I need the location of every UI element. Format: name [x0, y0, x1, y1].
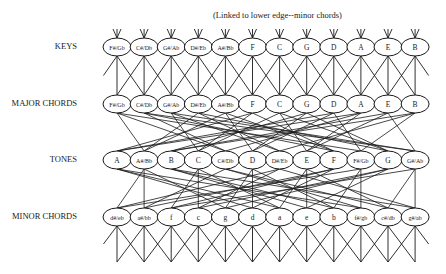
minor-node: c#/db: [374, 208, 402, 226]
edge: [388, 29, 392, 38]
minor-node: g#/ab: [401, 208, 429, 226]
svg-text:B: B: [413, 43, 418, 52]
edge: [103, 56, 117, 76]
major-node: C#/Db: [130, 95, 158, 113]
major-node: D: [320, 95, 348, 113]
svg-text:G: G: [304, 43, 310, 52]
minor-node: a#/bb: [130, 208, 158, 226]
edge: [415, 56, 429, 76]
edge: [221, 29, 225, 38]
edge: [117, 169, 253, 208]
svg-text:F#/Gb: F#/Gb: [109, 102, 124, 108]
tones-node: D#/Eb: [266, 151, 294, 169]
svg-text:E: E: [304, 156, 309, 165]
svg-text:a#/bb: a#/bb: [137, 215, 150, 221]
edge: [280, 29, 284, 38]
tones-node: B: [157, 151, 185, 169]
tones-node: C: [184, 151, 212, 169]
edge: [415, 29, 419, 38]
keys-node: C#/Db: [130, 38, 158, 56]
edge: [361, 29, 365, 38]
edge: [113, 29, 117, 38]
major-node: A#/Bb: [211, 95, 239, 113]
svg-text:B: B: [169, 156, 174, 165]
keys-node: B: [401, 38, 429, 56]
major-node: B: [401, 95, 429, 113]
major-node: F#/Gb: [103, 95, 131, 113]
svg-text:F#/Gb: F#/Gb: [109, 45, 124, 51]
keys-node: A: [347, 38, 375, 56]
svg-text:A#/Bb: A#/Bb: [217, 102, 233, 108]
svg-text:d#/eb: d#/eb: [110, 215, 123, 221]
edge: [171, 113, 388, 151]
tones-node: D: [239, 151, 267, 169]
minor-node: g: [211, 208, 239, 226]
svg-text:C#/Db: C#/Db: [217, 158, 233, 164]
tones-node: F#/Gb: [347, 151, 375, 169]
svg-text:D: D: [331, 100, 337, 109]
edge: [307, 113, 361, 151]
edge: [276, 29, 280, 38]
keys-node: G: [293, 38, 321, 56]
svg-text:A: A: [358, 100, 364, 109]
svg-text:F: F: [250, 43, 254, 52]
edge: [388, 113, 415, 151]
svg-text:D#/Eb: D#/Eb: [190, 102, 206, 108]
svg-text:f#/gb: f#/gb: [355, 215, 368, 221]
edge: [198, 29, 202, 38]
svg-text:G: G: [304, 100, 310, 109]
svg-text:D: D: [250, 156, 256, 165]
edge: [330, 29, 334, 38]
minor-node: d#/eb: [103, 208, 131, 226]
keys-node: D: [320, 38, 348, 56]
minor-node: f#/gb: [347, 208, 375, 226]
edge: [171, 29, 175, 38]
svg-text:E: E: [386, 100, 391, 109]
edge: [361, 113, 415, 151]
edge: [388, 169, 415, 208]
svg-text:B: B: [413, 100, 418, 109]
svg-text:A: A: [358, 43, 364, 52]
svg-text:c#/db: c#/db: [381, 215, 394, 221]
svg-text:G#/Ab: G#/Ab: [163, 102, 179, 108]
svg-text:b: b: [332, 213, 336, 222]
svg-text:C: C: [196, 156, 201, 165]
svg-text:g#/ab: g#/ab: [408, 215, 421, 221]
edge: [144, 29, 148, 38]
svg-text:A#/Bb: A#/Bb: [217, 45, 233, 51]
major-node: G#/Ab: [157, 95, 185, 113]
edge: [303, 29, 307, 38]
svg-text:D: D: [331, 43, 337, 52]
edge: [415, 226, 429, 244]
svg-text:A: A: [114, 156, 120, 165]
keys-node: G#/Ab: [157, 38, 185, 56]
major-node: A: [347, 95, 375, 113]
svg-text:D#/Eb: D#/Eb: [190, 45, 206, 51]
edge: [194, 29, 198, 38]
edge: [117, 29, 121, 38]
edge: [117, 113, 144, 151]
edge: [334, 29, 338, 38]
major-node: E: [374, 95, 402, 113]
minor-node: f: [157, 208, 185, 226]
major-node: F: [239, 95, 267, 113]
svg-text:F: F: [332, 156, 336, 165]
edge: [103, 226, 117, 244]
minor-node: a: [266, 208, 294, 226]
minor-node: b: [320, 208, 348, 226]
keys-node: D#/Eb: [184, 38, 212, 56]
svg-text:d: d: [251, 213, 255, 222]
edge: [140, 29, 144, 38]
edge: [253, 29, 257, 38]
tones-node: G: [374, 151, 402, 169]
svg-text:C#/Db: C#/Db: [136, 102, 152, 108]
major-node: G: [293, 95, 321, 113]
svg-text:F: F: [250, 100, 254, 109]
edge: [357, 29, 361, 38]
edge: [249, 29, 253, 38]
minor-node: d: [239, 208, 267, 226]
music-relationship-graph: F#/GbC#/DbG#/AbD#/EbA#/BbFCGDAEBF#/GbC#/…: [0, 0, 446, 274]
tones-node: A#/Bb: [130, 151, 158, 169]
edge: [280, 169, 416, 208]
keys-node: F#/Gb: [103, 38, 131, 56]
